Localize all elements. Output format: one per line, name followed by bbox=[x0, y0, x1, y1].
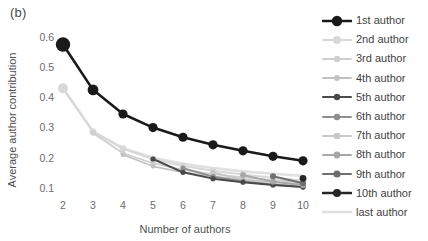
x-tick-label: 6 bbox=[180, 199, 186, 211]
x-tick-label: 9 bbox=[270, 199, 276, 211]
data-point bbox=[178, 133, 187, 142]
series-line bbox=[63, 45, 303, 161]
legend-item[interactable]: 5th author bbox=[322, 88, 428, 107]
x-axis-title: Number of authors bbox=[139, 223, 231, 235]
x-axis-tick-labels: 2345678910 bbox=[60, 199, 309, 211]
data-point bbox=[90, 130, 95, 135]
legend-swatch-icon bbox=[322, 148, 352, 162]
data-point bbox=[240, 172, 246, 178]
legend-item[interactable]: last author bbox=[322, 203, 428, 222]
y-tick-label: 0.5 bbox=[39, 61, 54, 73]
data-point bbox=[150, 156, 155, 161]
y-tick-label: 0.2 bbox=[39, 152, 54, 164]
plot-area: 0.10.20.30.40.50.6 2345678910 Number of … bbox=[0, 0, 330, 241]
data-point bbox=[240, 180, 245, 185]
data-point bbox=[298, 156, 307, 165]
legend-label: 5th author bbox=[356, 92, 406, 103]
data-point bbox=[56, 37, 70, 51]
legend-label: 8th author bbox=[356, 149, 406, 160]
legend-swatch-icon bbox=[322, 186, 352, 200]
legend-item[interactable]: 10th author bbox=[322, 184, 428, 203]
legend-item[interactable]: 1st author bbox=[322, 11, 428, 30]
data-point bbox=[268, 152, 277, 161]
data-point bbox=[238, 146, 247, 155]
series-1st-author bbox=[56, 37, 308, 165]
x-tick-label: 3 bbox=[90, 199, 96, 211]
legend-label: 10th author bbox=[356, 188, 412, 199]
legend-label: 3rd author bbox=[356, 53, 406, 64]
legend-swatch-icon bbox=[322, 129, 352, 143]
legend-label: last author bbox=[356, 207, 407, 218]
legend-label: 6th author bbox=[356, 111, 406, 122]
legend-label: 4th author bbox=[356, 73, 406, 84]
legend-swatch-icon bbox=[322, 90, 352, 104]
legend-item[interactable]: 3rd author bbox=[322, 49, 428, 68]
legend-item[interactable]: 2nd author bbox=[322, 30, 428, 49]
x-tick-label: 7 bbox=[210, 199, 216, 211]
y-tick-label: 0.1 bbox=[39, 182, 54, 194]
y-tick-label: 0.4 bbox=[39, 91, 54, 103]
figure-panel-b: (b) 0.10.20.30.40.50.6 2345678910 Number… bbox=[0, 0, 428, 241]
data-point bbox=[58, 83, 68, 93]
legend-label: 7th author bbox=[356, 130, 406, 141]
x-tick-label: 8 bbox=[240, 199, 246, 211]
legend-item[interactable]: 9th author bbox=[322, 165, 428, 184]
line-chart: 0.10.20.30.40.50.6 2345678910 Number of … bbox=[0, 0, 330, 241]
series-layer bbox=[56, 37, 308, 189]
legend-swatch-icon bbox=[322, 205, 352, 219]
y-axis-title: Average author contribution bbox=[6, 53, 18, 188]
data-point bbox=[88, 84, 99, 95]
data-point bbox=[180, 170, 185, 175]
data-point bbox=[151, 164, 156, 169]
data-point bbox=[148, 123, 157, 132]
data-point bbox=[270, 173, 276, 179]
x-tick-label: 5 bbox=[150, 199, 156, 211]
data-point bbox=[118, 109, 127, 118]
legend-swatch-icon bbox=[322, 52, 352, 66]
legend-swatch-icon bbox=[322, 33, 352, 47]
legend-item[interactable]: 4th author bbox=[322, 69, 428, 88]
legend-item[interactable]: 8th author bbox=[322, 145, 428, 164]
data-point bbox=[210, 176, 215, 181]
legend-item[interactable]: 6th author bbox=[322, 107, 428, 126]
legend-swatch-icon bbox=[322, 167, 352, 181]
legend-label: 9th author bbox=[356, 169, 406, 180]
legend-item[interactable]: 7th author bbox=[322, 126, 428, 145]
x-tick-label: 2 bbox=[60, 199, 66, 211]
y-tick-label: 0.3 bbox=[39, 121, 54, 133]
legend: 1st author2nd author3rd author4th author… bbox=[322, 11, 428, 222]
data-point bbox=[208, 140, 217, 149]
series-10th-author bbox=[300, 175, 307, 182]
x-tick-label: 4 bbox=[120, 199, 126, 211]
data-point bbox=[121, 152, 126, 157]
y-axis-tick-labels: 0.10.20.30.40.50.6 bbox=[39, 31, 54, 194]
data-point bbox=[300, 175, 307, 182]
legend-label: 2nd author bbox=[356, 34, 409, 45]
x-tick-label: 10 bbox=[297, 199, 309, 211]
legend-swatch-icon bbox=[322, 110, 352, 124]
legend-label: 1st author bbox=[356, 15, 405, 26]
data-point bbox=[270, 179, 276, 185]
y-tick-label: 0.6 bbox=[39, 31, 54, 43]
legend-swatch-icon bbox=[322, 71, 352, 85]
legend-swatch-icon bbox=[322, 14, 352, 28]
